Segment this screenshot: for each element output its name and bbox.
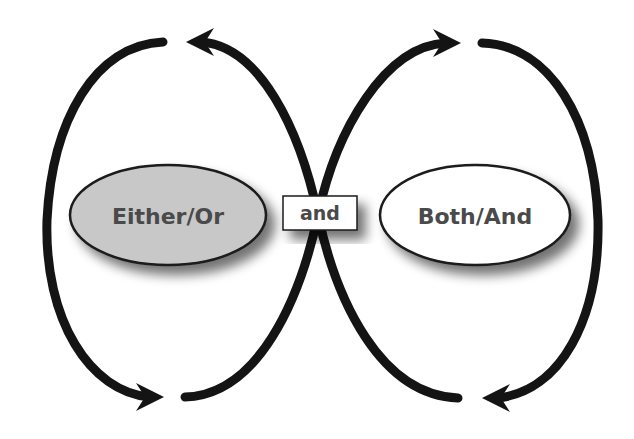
both-and-label: Both/And bbox=[418, 204, 533, 229]
either-or-label: Either/Or bbox=[112, 204, 224, 229]
polarity-diagram: Either/Or Both/And and bbox=[0, 0, 634, 439]
and-label: and bbox=[300, 202, 340, 224]
